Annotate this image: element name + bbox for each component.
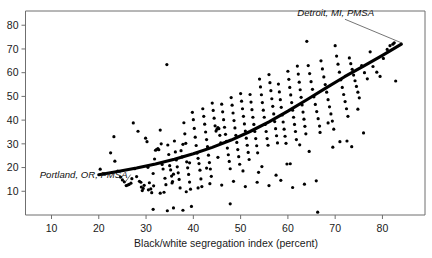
scatter-point (186, 166, 189, 169)
scatter-point (294, 130, 297, 133)
scatter-point (338, 71, 341, 74)
scatter-point (256, 151, 259, 154)
scatter-point (308, 72, 311, 75)
scatter-point (129, 182, 132, 185)
scatter-point (298, 143, 301, 146)
scatter-point (309, 80, 312, 83)
scatter-point (283, 135, 286, 138)
scatter-point (220, 184, 223, 187)
scatter-point (185, 160, 188, 163)
y-tick-label: 80 (7, 19, 19, 31)
scatter-point (152, 184, 155, 187)
scatter-point (341, 86, 344, 89)
scatter-point (153, 157, 156, 160)
scatter-point (170, 181, 173, 184)
scatter-point (222, 118, 225, 121)
scatter-point (204, 130, 207, 133)
scatter-point (260, 165, 263, 168)
scatter-point (197, 162, 200, 165)
scatter-point (345, 139, 348, 142)
scatter-point (334, 44, 337, 47)
x-tick-label: 60 (282, 222, 294, 234)
scatter-point (363, 71, 366, 74)
scatter-point (308, 150, 311, 153)
scatter-point (165, 63, 168, 66)
scatter-point (205, 138, 208, 141)
scatter-point (329, 112, 332, 115)
scatter-point (184, 142, 187, 145)
scatter-point (280, 106, 283, 109)
scatter-point (178, 178, 181, 181)
scatter-point (338, 140, 341, 143)
scatter-point (205, 166, 208, 169)
scatter-point (315, 110, 318, 113)
scatter-point (201, 107, 204, 110)
scatter-point (179, 186, 182, 189)
scatter-point (232, 119, 235, 122)
scatter-point (393, 41, 396, 44)
scatter-point (216, 156, 219, 159)
scatter-point (299, 88, 302, 91)
scatter-point (267, 184, 270, 187)
scatter-point (173, 139, 176, 142)
scatter-point (238, 163, 241, 166)
scatter-point (248, 158, 251, 161)
y-tick-label: 70 (7, 43, 19, 55)
scatter-point (293, 123, 296, 126)
scatter-point (152, 208, 155, 211)
scatter-point (349, 62, 352, 65)
scatter-point (213, 124, 216, 127)
scatter-point (274, 174, 277, 177)
scatter-point (274, 127, 277, 130)
scatter-point (159, 192, 162, 195)
scatter-point (350, 145, 353, 148)
scatter-point (220, 103, 223, 106)
scatter-point (348, 56, 351, 59)
y-tick-label: 40 (7, 114, 19, 126)
scatter-point (366, 77, 369, 80)
scatter-point (369, 50, 372, 53)
scatter-point (218, 134, 221, 137)
scatter-point (303, 125, 306, 128)
scatter-point (229, 202, 232, 205)
scatter-point (166, 143, 169, 146)
scatter-point (378, 75, 381, 78)
scatter-point (326, 121, 329, 124)
scatter-point (241, 107, 244, 110)
scatter-point (353, 79, 356, 82)
scatter-point (195, 144, 198, 147)
scatter-point (331, 119, 334, 122)
scatter-point (298, 81, 301, 84)
scatter-point (265, 137, 268, 140)
scatter-point (181, 143, 184, 146)
scatter-point (177, 171, 180, 174)
scatter-point (382, 57, 385, 60)
scatter-point (143, 184, 146, 187)
scatter-point (304, 132, 307, 135)
scatter-point (139, 181, 142, 184)
scatter-point (113, 160, 116, 163)
scatter-point (109, 151, 112, 154)
scatter-point (249, 100, 252, 103)
scatter-point (209, 167, 212, 170)
scatter-point (227, 153, 230, 156)
scatter-point (328, 105, 331, 108)
scatter-point (322, 75, 325, 78)
scatter-point (256, 181, 259, 184)
scatter-point (150, 191, 153, 194)
scatter-point (254, 137, 257, 140)
scatter-point (325, 91, 328, 94)
y-tick-label: 30 (7, 138, 19, 150)
scatter-point (271, 105, 274, 108)
scatter-point (282, 120, 285, 123)
scatter-point (242, 115, 245, 118)
scatter-point (263, 116, 266, 119)
scatter-point (303, 183, 306, 186)
detroit-label: Detroit, MI, PMSA (297, 7, 374, 18)
x-tick-label: 10 (46, 222, 58, 234)
scatter-point (358, 96, 361, 99)
scatter-point (326, 98, 329, 101)
scatter-point (237, 155, 240, 158)
scatter-point (162, 191, 165, 194)
scatter-point (286, 70, 289, 73)
